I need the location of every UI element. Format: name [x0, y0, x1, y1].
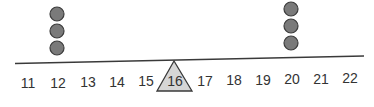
fulcrum-label: 16	[167, 73, 183, 89]
tick-label: 11	[21, 75, 36, 91]
tick-label: 19	[255, 72, 271, 88]
tick-label: 13	[80, 74, 96, 90]
tick-label: 18	[226, 72, 242, 88]
tick-label: 22	[342, 70, 358, 86]
tick-label: 20	[284, 71, 300, 87]
weight-circle	[284, 19, 298, 33]
weight-circle	[50, 7, 64, 21]
tick-label: 21	[313, 71, 329, 87]
weights-left-12	[50, 7, 64, 55]
weight-circle	[50, 41, 64, 55]
tick-label: 15	[138, 73, 154, 89]
tick-label: 12	[50, 75, 66, 91]
weight-circle	[50, 24, 64, 38]
beam-line	[15, 56, 364, 64]
tick-label: 14	[109, 74, 125, 90]
tick-label: 17	[197, 73, 213, 89]
balance-diagram: 11 12 13 14 15 16 17 18 19 20 21 22	[0, 0, 374, 107]
weight-circle	[284, 36, 298, 50]
weights-right-20	[284, 2, 298, 50]
weight-circle	[284, 2, 298, 16]
